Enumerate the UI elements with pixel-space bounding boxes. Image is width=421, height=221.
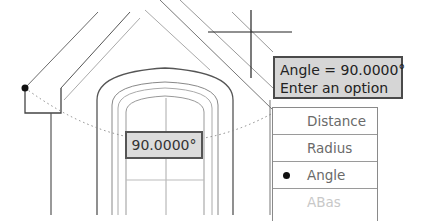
tooltip-prompt: Enter an option	[280, 79, 401, 97]
dynamic-angle-input[interactable]: 90.0000°	[125, 131, 203, 159]
menu-item-abase[interactable]: ABas	[273, 189, 377, 216]
roof-right	[145, 0, 273, 110]
menu-item-label: Radius	[307, 135, 352, 161]
roof-left	[25, 12, 140, 215]
selected-bullet-icon	[283, 172, 290, 179]
angle-tooltip: Angle = 90.0000° Enter an option	[273, 56, 403, 99]
menu-item-radius[interactable]: Radius	[273, 135, 377, 162]
menu-item-angle[interactable]: Angle	[273, 162, 377, 189]
grip-point[interactable]	[22, 85, 29, 92]
menu-item-label: ABas	[307, 189, 341, 215]
menu-item-label: Distance	[307, 108, 366, 134]
menu-item-label: Angle	[307, 162, 345, 188]
options-menu: Distance Radius Angle ABas	[272, 107, 378, 221]
tooltip-angle-value: Angle = 90.0000°	[280, 61, 401, 79]
menu-item-distance[interactable]: Distance	[273, 108, 377, 135]
